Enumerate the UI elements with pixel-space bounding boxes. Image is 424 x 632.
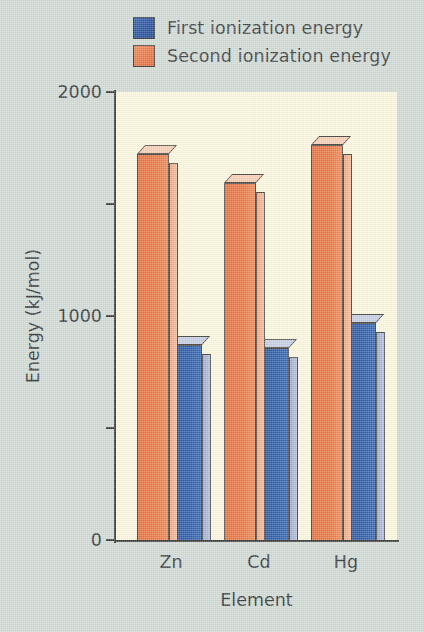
- bar-cd-second: [224, 174, 265, 541]
- bar-front-face: [137, 154, 169, 541]
- y-tick-label-0: 0: [30, 530, 102, 550]
- y-tick-2000: [106, 91, 115, 93]
- bar-side-face: [376, 332, 385, 541]
- bar-front-face: [311, 145, 343, 541]
- bar-top-face: [137, 145, 177, 154]
- y-tick-0: [106, 539, 115, 541]
- bar-zn-second: [137, 145, 178, 541]
- bar-side-face: [202, 354, 211, 541]
- y-tick-500: [106, 427, 115, 429]
- legend-swatch-first-icon: [133, 17, 155, 39]
- x-tick-label-zn: Zn: [136, 552, 206, 572]
- bar-hg-second: [311, 136, 352, 541]
- legend-item-second: Second ionization energy: [133, 42, 391, 70]
- bar-side-face: [256, 192, 265, 541]
- x-tick-label-cd: Cd: [224, 552, 294, 572]
- x-axis-title: Element: [116, 590, 397, 610]
- bar-side-face: [289, 357, 298, 541]
- legend-label-second: Second ionization energy: [167, 46, 391, 66]
- legend-swatch-second-icon: [133, 45, 155, 67]
- y-tick-1000: [106, 315, 115, 317]
- bar-side-face: [169, 163, 178, 541]
- x-axis-tick-labels: Zn Cd Hg: [116, 552, 397, 578]
- bar-side-face: [343, 154, 352, 541]
- bar-front-face: [224, 183, 256, 541]
- x-axis-line: [114, 540, 399, 542]
- y-tick-1500: [106, 203, 115, 205]
- legend-item-first: First ionization energy: [133, 14, 391, 42]
- x-tick-label-hg: Hg: [311, 552, 381, 572]
- y-axis-title: Energy (kJ/mol): [23, 221, 43, 411]
- bar-top-face: [311, 136, 351, 145]
- legend-label-first: First ionization energy: [167, 18, 363, 38]
- legend: First ionization energy Second ionizatio…: [133, 14, 391, 70]
- bar-top-face: [224, 174, 264, 183]
- y-tick-label-2000: 2000: [30, 82, 102, 102]
